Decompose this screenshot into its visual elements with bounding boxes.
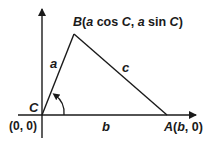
side-b-label: b <box>102 119 110 134</box>
point-b-label: B(a cos C, a sin C) <box>73 15 183 29</box>
vertex-c-label: C <box>29 100 39 115</box>
point-a-label: A(b, 0) <box>163 120 203 134</box>
origin-label: (0, 0) <box>9 119 37 133</box>
side-c-label: c <box>122 60 130 75</box>
side-a-label: a <box>50 56 57 71</box>
side-c <box>74 34 167 115</box>
triangle-diagram: B(a cos C, a sin C) a c b C (0, 0) A(b, … <box>0 0 215 146</box>
angle-arc <box>55 95 64 115</box>
side-a <box>42 34 74 115</box>
